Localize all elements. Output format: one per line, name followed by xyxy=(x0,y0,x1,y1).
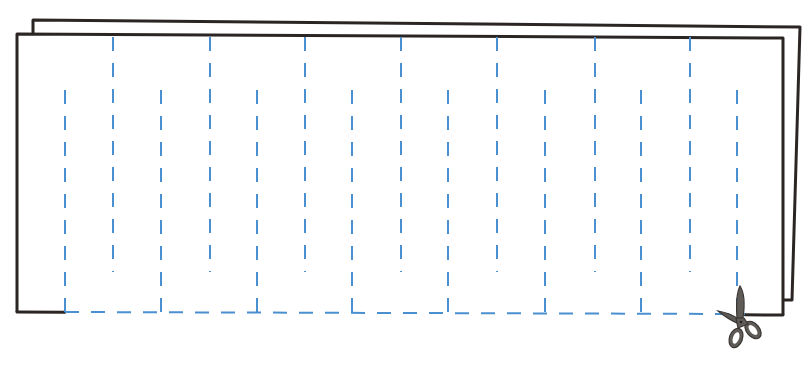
paper-cutting-diagram xyxy=(0,0,807,375)
